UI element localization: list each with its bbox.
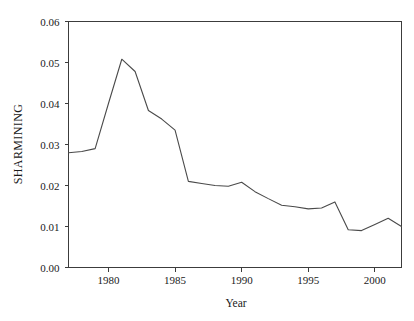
- y-tick-label: 0.06: [40, 16, 60, 28]
- y-tick-label: 0.05: [40, 57, 60, 69]
- x-tick-label: 1985: [164, 274, 187, 286]
- y-tick-label: 0.04: [40, 98, 60, 110]
- y-tick-label: 0.01: [40, 221, 59, 233]
- y-tick-label: 0.03: [40, 139, 60, 151]
- x-axis-ticks: 19801985199019952000: [97, 268, 386, 286]
- line-chart: 0.000.010.020.030.040.050.06 19801985199…: [0, 0, 414, 321]
- chart-figure: 0.000.010.020.030.040.050.06 19801985199…: [0, 0, 414, 321]
- x-axis-title: Year: [225, 297, 246, 309]
- chart-axes: [69, 22, 402, 268]
- y-tick-label: 0.00: [40, 262, 60, 274]
- x-tick-label: 2000: [364, 274, 387, 286]
- x-tick-label: 1990: [231, 274, 254, 286]
- data-series-group: [69, 59, 402, 230]
- plot-frame: [69, 22, 402, 268]
- x-tick-label: 1980: [97, 274, 120, 286]
- x-tick-label: 1995: [297, 274, 320, 286]
- y-axis-ticks: 0.000.010.020.030.040.050.06: [40, 16, 68, 274]
- y-tick-label: 0.02: [40, 180, 59, 192]
- series-line-sharmining: [69, 59, 402, 230]
- y-axis-title: SHARMINING: [11, 104, 25, 185]
